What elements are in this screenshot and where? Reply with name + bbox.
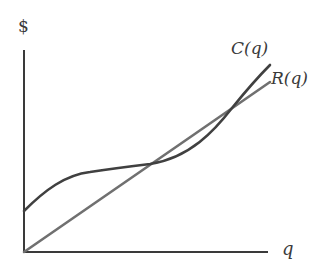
x-axis-label: q <box>282 240 294 258</box>
cost-curve-label: C(q) <box>231 40 268 57</box>
revenue-curve-label: R(q) <box>271 70 308 87</box>
cost-revenue-diagram <box>0 0 317 268</box>
y-axis-label: $ <box>18 18 29 35</box>
cost-curve <box>24 65 270 211</box>
